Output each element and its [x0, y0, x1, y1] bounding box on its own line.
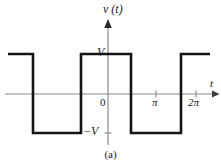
- x-tick-label-pi: π: [152, 97, 158, 108]
- waveform-figure: v (t) V −V 0 π 2π t (a): [0, 0, 221, 168]
- positive-amplitude-label: V: [97, 46, 104, 58]
- x-axis-arrow-icon: [212, 90, 220, 97]
- y-axis-arrow-icon: [104, 19, 112, 28]
- x-axis-label: t: [210, 78, 213, 89]
- y-axis-label: v (t): [103, 3, 123, 15]
- x-tick-label-two-pi: 2π: [188, 97, 199, 108]
- figure-caption: (a): [0, 148, 221, 160]
- waveform-plot: [0, 0, 221, 168]
- origin-label: 0: [100, 97, 106, 108]
- negative-amplitude-label: −V: [83, 125, 98, 137]
